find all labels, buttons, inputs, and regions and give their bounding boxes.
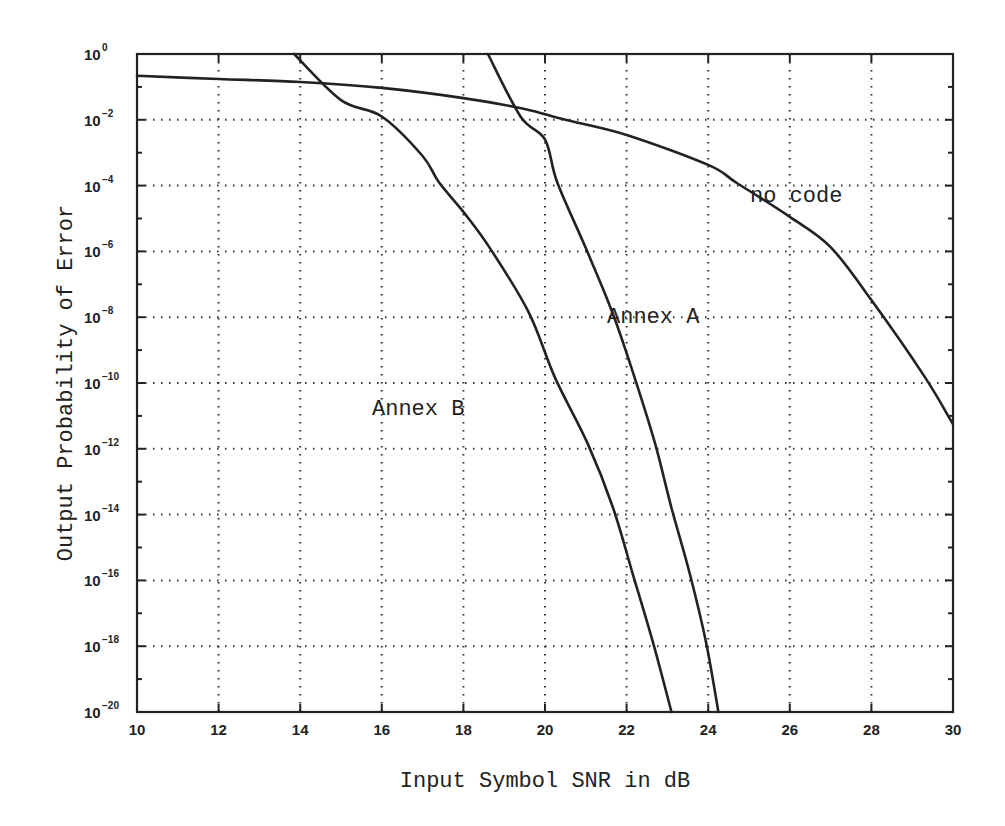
series-label-annex-b: Annex B <box>372 397 464 422</box>
svg-text:10: 10 <box>84 178 101 195</box>
y-tick-label: 10−6 <box>84 239 114 260</box>
svg-text:10: 10 <box>84 704 101 721</box>
x-tick-label: 12 <box>210 721 227 738</box>
svg-text:−18: −18 <box>102 634 119 645</box>
svg-text:−10: −10 <box>102 371 119 382</box>
svg-text:10: 10 <box>84 243 101 260</box>
y-tick-label: 10−8 <box>84 305 114 326</box>
x-tick-label: 18 <box>455 721 472 738</box>
svg-text:−12: −12 <box>102 437 119 448</box>
svg-text:10: 10 <box>84 441 101 458</box>
series-label-no-code: no code <box>750 184 842 209</box>
y-tick-label: 10−2 <box>84 108 114 129</box>
x-tick-label: 10 <box>129 721 146 738</box>
y-tick-labels: 10010−210−410−610−810−1010−1210−1410−161… <box>84 42 119 721</box>
y-tick-label: 10−14 <box>84 503 119 524</box>
x-tick-label: 14 <box>292 721 309 738</box>
x-tick-label: 24 <box>700 721 717 738</box>
svg-text:−2: −2 <box>102 108 114 119</box>
x-tick-label: 20 <box>537 721 554 738</box>
y-tick-label: 10−4 <box>84 174 114 195</box>
x-tick-label: 22 <box>618 721 635 738</box>
y-tick-label: 10−10 <box>84 371 119 392</box>
svg-text:−16: −16 <box>102 568 119 579</box>
x-axis-title: Input Symbol SNR in dB <box>400 769 690 794</box>
y-tick-label: 10−16 <box>84 568 119 589</box>
svg-text:10: 10 <box>84 112 101 129</box>
svg-text:−8: −8 <box>102 305 114 316</box>
svg-text:10: 10 <box>84 572 101 589</box>
svg-text:−20: −20 <box>102 700 119 711</box>
svg-text:−4: −4 <box>102 174 114 185</box>
svg-text:10: 10 <box>84 309 101 326</box>
x-tick-labels: 1012141618202224262830 <box>129 721 962 738</box>
svg-text:10: 10 <box>84 46 101 63</box>
series-line-no-code <box>137 76 953 424</box>
grid-lines <box>137 54 953 712</box>
x-tick-label: 28 <box>863 721 880 738</box>
svg-text:10: 10 <box>84 638 101 655</box>
svg-text:10: 10 <box>84 507 101 524</box>
series-label-annex-a: Annex A <box>607 305 700 330</box>
series-line-annex-b <box>294 54 671 712</box>
y-tick-label: 10−12 <box>84 437 119 458</box>
y-axis-title: Output Probability of Error <box>54 205 79 561</box>
y-tick-label: 100 <box>84 42 108 63</box>
y-tick-label: 10−20 <box>84 700 119 721</box>
svg-text:10: 10 <box>84 375 101 392</box>
x-tick-label: 16 <box>373 721 390 738</box>
x-tick-label: 30 <box>945 721 962 738</box>
svg-text:−6: −6 <box>102 239 114 250</box>
svg-text:−14: −14 <box>102 503 119 514</box>
ber-chart: 1012141618202224262830 10010−210−410−610… <box>0 0 1005 826</box>
y-tick-label: 10−18 <box>84 634 119 655</box>
x-tick-label: 26 <box>781 721 798 738</box>
svg-text:0: 0 <box>102 42 108 53</box>
